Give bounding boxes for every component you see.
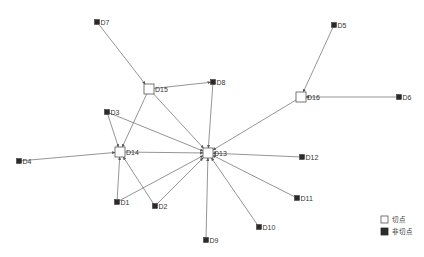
node-label: D14 bbox=[126, 149, 139, 156]
node-d11: D11 bbox=[295, 195, 313, 202]
node-d7: D7 bbox=[95, 19, 110, 26]
non-cut-point-legend-label: 非切点 bbox=[392, 227, 413, 236]
node-d1: D1 bbox=[115, 199, 130, 206]
edge-d16-d13 bbox=[213, 100, 296, 150]
non-cut-point-node-icon bbox=[397, 95, 402, 100]
node-d14: D14 bbox=[115, 147, 139, 157]
non-cut-point-node-icon bbox=[153, 204, 158, 209]
cut-point-node-icon bbox=[296, 92, 306, 102]
edge-d5-d16 bbox=[303, 28, 333, 93]
node-label: D8 bbox=[217, 79, 226, 86]
node-d4: D4 bbox=[17, 158, 32, 165]
non-cut-point-node-icon bbox=[300, 155, 305, 160]
edge-d1-d14 bbox=[117, 157, 120, 200]
node-d2: D2 bbox=[153, 203, 168, 210]
node-label: D9 bbox=[210, 237, 219, 244]
network-diagram: D1D2D3D4D5D6D7D8D9D10D11D12D13D14D15D16 … bbox=[0, 0, 424, 257]
node-label: D3 bbox=[111, 109, 120, 116]
node-label: D4 bbox=[23, 158, 32, 165]
cut-point-node-icon bbox=[144, 84, 154, 94]
node-label: D1 bbox=[121, 199, 130, 206]
node-label: D10 bbox=[263, 224, 276, 231]
edge-d15-d14 bbox=[122, 94, 146, 147]
cut-point-node-icon bbox=[203, 148, 213, 158]
legend: 切点 非切点 bbox=[381, 216, 413, 236]
edge-d8-d13 bbox=[208, 85, 212, 149]
node-label: D7 bbox=[101, 19, 110, 26]
non-cut-point-legend-icon bbox=[381, 228, 388, 235]
node-d9: D9 bbox=[204, 237, 219, 244]
node-label: D6 bbox=[403, 94, 412, 101]
non-cut-point-node-icon bbox=[211, 80, 216, 85]
non-cut-point-node-icon bbox=[115, 200, 120, 205]
node-label: D16 bbox=[307, 94, 320, 101]
edge-d9-d13 bbox=[206, 158, 208, 238]
edge-d1-d13 bbox=[120, 156, 204, 201]
edge-d15-d13 bbox=[154, 94, 204, 148]
cut-point-legend-label: 切点 bbox=[392, 216, 406, 224]
node-d10: D10 bbox=[257, 224, 276, 231]
node-d15: D15 bbox=[144, 84, 168, 94]
edges-layer bbox=[22, 25, 397, 238]
node-label: D2 bbox=[159, 203, 168, 210]
node-label: D11 bbox=[301, 195, 313, 202]
node-d8: D8 bbox=[211, 79, 226, 86]
non-cut-point-node-icon bbox=[95, 20, 100, 25]
nodes-layer: D1D2D3D4D5D6D7D8D9D10D11D12D13D14D15D16 bbox=[17, 19, 412, 244]
node-d6: D6 bbox=[397, 94, 412, 101]
non-cut-point-node-icon bbox=[105, 110, 110, 115]
node-d3: D3 bbox=[105, 109, 120, 116]
node-label: D5 bbox=[338, 22, 347, 29]
non-cut-point-node-icon bbox=[17, 159, 22, 164]
cut-point-node-icon bbox=[115, 147, 125, 157]
edge-d3-d14 bbox=[108, 115, 119, 148]
non-cut-point-node-icon bbox=[295, 196, 300, 201]
edge-d4-d14 bbox=[22, 152, 116, 160]
node-d16: D16 bbox=[296, 92, 320, 102]
node-d12: D12 bbox=[300, 154, 319, 161]
node-label: D13 bbox=[214, 150, 227, 157]
cut-point-legend-icon bbox=[381, 216, 388, 223]
non-cut-point-node-icon bbox=[257, 225, 262, 230]
node-label: D15 bbox=[155, 86, 168, 93]
non-cut-point-node-icon bbox=[332, 23, 337, 28]
edge-d7-d15 bbox=[99, 25, 145, 85]
edge-d11-d13 bbox=[213, 156, 295, 197]
node-label: D12 bbox=[306, 154, 319, 161]
edge-d2-d13 bbox=[158, 158, 204, 204]
non-cut-point-node-icon bbox=[204, 238, 209, 243]
node-d5: D5 bbox=[332, 22, 347, 29]
edge-d10-d13 bbox=[211, 158, 257, 225]
